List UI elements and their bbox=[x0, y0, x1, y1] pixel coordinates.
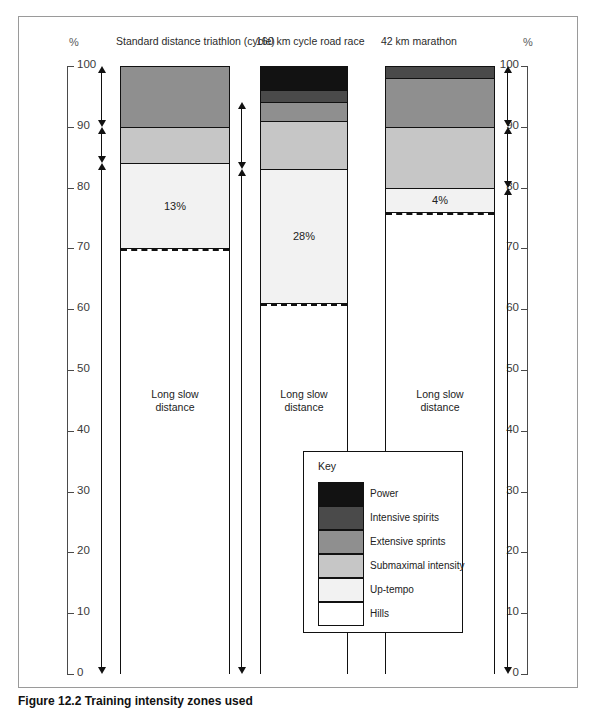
bar-annotation: 4% bbox=[386, 194, 494, 206]
column-title-2: 42 km marathon bbox=[381, 35, 457, 47]
chart-plot-area: %0102030405060708090100%0102030405060708… bbox=[19, 17, 577, 687]
right-axis-tick-label: 70 bbox=[491, 240, 519, 252]
right-axis-tick bbox=[521, 431, 528, 432]
column-title-0: Standard distance triathlon (cycle) bbox=[116, 35, 275, 47]
bar-segment bbox=[261, 122, 347, 171]
mid-range-arrow-head-down bbox=[238, 667, 246, 674]
left-axis-tick bbox=[67, 431, 74, 432]
right-axis-tick-label: 10 bbox=[491, 605, 519, 617]
right-range-arrow-head-up bbox=[504, 66, 512, 73]
legend-item-label: Up-tempo bbox=[370, 584, 414, 595]
left-axis-tick-label: 40 bbox=[77, 423, 90, 435]
mid-range-arrow-head-up bbox=[238, 102, 246, 109]
left-range-arrow bbox=[101, 71, 102, 122]
legend-item-label: Submaximal intensity bbox=[370, 560, 464, 571]
right-axis-tick bbox=[521, 370, 528, 371]
right-axis-tick bbox=[521, 309, 528, 310]
bar-segment bbox=[386, 128, 494, 189]
bar-segment bbox=[261, 91, 347, 103]
legend-swatch bbox=[318, 554, 364, 578]
right-range-arrow bbox=[507, 132, 508, 183]
mid-range-arrow bbox=[241, 174, 242, 669]
figure-frame: %0102030405060708090100%0102030405060708… bbox=[18, 16, 578, 688]
legend-swatch bbox=[318, 602, 364, 626]
right-range-arrow bbox=[507, 193, 508, 669]
reference-dashed-line bbox=[121, 249, 229, 251]
stacked-bar: 13%Long slowdistance bbox=[120, 66, 230, 674]
bar-annotation: 13% bbox=[121, 200, 229, 212]
right-axis-tick bbox=[521, 66, 528, 67]
left-axis-tick-label: 60 bbox=[77, 301, 90, 313]
legend-swatch bbox=[318, 482, 364, 506]
left-axis-tick bbox=[67, 492, 74, 493]
bar-annotation: Long slowdistance bbox=[121, 388, 229, 414]
legend-item-label: Intensive spirits bbox=[370, 512, 439, 523]
right-axis-tick bbox=[521, 552, 528, 553]
right-axis-tick bbox=[521, 188, 528, 189]
left-axis-unit: % bbox=[69, 36, 79, 48]
mid-range-arrow-head-down bbox=[238, 162, 246, 169]
left-axis-tick-label: 70 bbox=[77, 240, 90, 252]
left-range-arrow bbox=[101, 168, 102, 669]
right-range-arrow-head-down bbox=[504, 181, 512, 188]
right-axis-tick bbox=[521, 674, 528, 675]
bar-segment bbox=[121, 67, 229, 128]
bar-annotation: 28% bbox=[261, 230, 347, 242]
left-axis-tick-label: 90 bbox=[77, 119, 90, 131]
left-axis-tick bbox=[67, 613, 74, 614]
left-range-arrow-head-up bbox=[98, 127, 106, 134]
right-axis-tick bbox=[521, 248, 528, 249]
left-range-arrow-head-down bbox=[98, 667, 106, 674]
right-axis-tick-label: 20 bbox=[491, 544, 519, 556]
bar-annotation: Long slowdistance bbox=[261, 388, 347, 414]
right-axis-unit: % bbox=[523, 36, 533, 48]
right-axis-tick-label: 60 bbox=[491, 301, 519, 313]
mid-range-arrow-head-up bbox=[238, 169, 246, 176]
right-axis-tick bbox=[521, 492, 528, 493]
mid-range-arrow bbox=[241, 107, 242, 164]
right-range-arrow-head-up bbox=[504, 127, 512, 134]
left-axis-tick-label: 100 bbox=[77, 58, 96, 70]
legend-key-box: KeyPowerIntensive spiritsExtensive sprin… bbox=[303, 451, 463, 633]
left-axis-tick bbox=[67, 674, 74, 675]
left-range-arrow-head-down bbox=[98, 156, 106, 163]
left-axis-tick-label: 50 bbox=[77, 362, 90, 374]
right-range-arrow-head-up bbox=[504, 188, 512, 195]
legend-title: Key bbox=[318, 460, 336, 472]
left-axis-tick bbox=[67, 66, 74, 67]
right-axis-tick bbox=[521, 613, 528, 614]
legend-swatch bbox=[318, 506, 364, 530]
left-axis-tick bbox=[67, 370, 74, 371]
left-axis-tick bbox=[67, 248, 74, 249]
bar-segment bbox=[261, 67, 347, 91]
right-range-arrow-head-down bbox=[504, 667, 512, 674]
figure-caption: Figure 12.2 Training intensity zones use… bbox=[18, 694, 253, 708]
left-axis-tick bbox=[67, 309, 74, 310]
bar-segment bbox=[121, 249, 229, 675]
left-axis-tick bbox=[67, 188, 74, 189]
left-range-arrow-head-down bbox=[98, 120, 106, 127]
right-axis-tick-label: 40 bbox=[491, 423, 519, 435]
legend-swatch bbox=[318, 530, 364, 554]
bar-segment bbox=[261, 103, 347, 121]
left-axis-tick bbox=[67, 127, 74, 128]
right-axis-tick-label: 50 bbox=[491, 362, 519, 374]
left-axis-tick-label: 30 bbox=[77, 484, 90, 496]
right-axis-tick bbox=[521, 127, 528, 128]
bar-segment bbox=[121, 128, 229, 164]
left-axis-tick-label: 80 bbox=[77, 180, 90, 192]
reference-dashed-line bbox=[261, 304, 347, 306]
column-title-1: 160 km cycle road race bbox=[256, 35, 365, 47]
left-axis-tick-label: 20 bbox=[77, 544, 90, 556]
bar-segment bbox=[386, 67, 494, 79]
right-axis-tick-label: 30 bbox=[491, 484, 519, 496]
legend-item-label: Hills bbox=[370, 608, 389, 619]
legend-swatch bbox=[318, 578, 364, 602]
left-axis-tick-label: 10 bbox=[77, 605, 90, 617]
reference-dashed-line bbox=[386, 213, 494, 215]
right-range-arrow-head-down bbox=[504, 120, 512, 127]
left-range-arrow-head-up bbox=[98, 66, 106, 73]
left-axis-tick bbox=[67, 552, 74, 553]
bar-annotation: Long slowdistance bbox=[386, 388, 494, 414]
legend-item-label: Power bbox=[370, 488, 398, 499]
